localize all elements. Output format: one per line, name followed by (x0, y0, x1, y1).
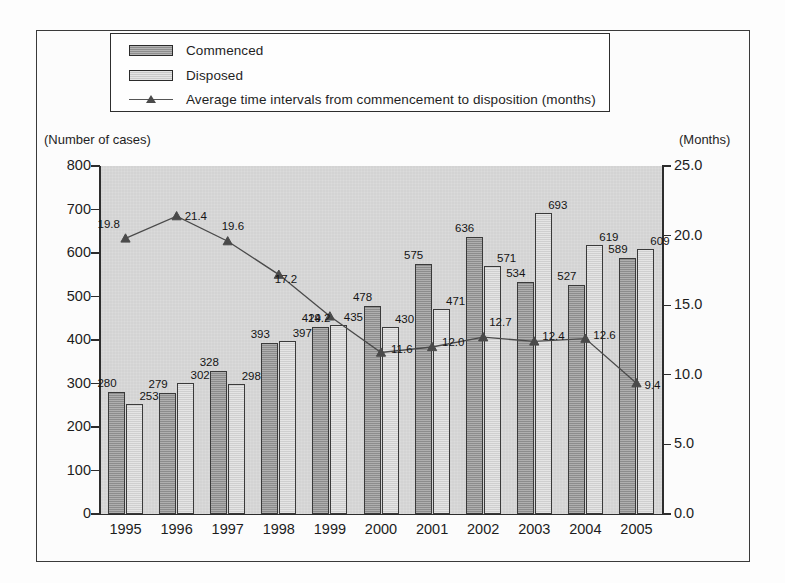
y-tick-left (91, 296, 100, 297)
y-tick-label-left: 0 (45, 505, 91, 521)
line-value-label: 12.4 (542, 330, 564, 342)
y-tick-label-left: 100 (45, 462, 91, 478)
y-tick-label-left: 400 (45, 331, 91, 347)
y-tick-label-right: 25.0 (674, 157, 730, 173)
chart-figure: Commenced Disposed Average time interval… (0, 0, 785, 583)
y-tick-label-left: 600 (45, 244, 91, 260)
y-tick-right (662, 165, 671, 166)
x-tick-label: 1996 (151, 521, 203, 537)
x-tick-label: 1999 (304, 521, 356, 537)
y-tick-label-left: 700 (45, 201, 91, 217)
y-axis-right (662, 166, 664, 515)
y-tick-label-right: 15.0 (674, 296, 730, 312)
y-tick-label-left: 500 (45, 288, 91, 304)
y-tick-left (91, 165, 100, 166)
legend-item-average-time: Average time intervals from commencement… (129, 89, 596, 109)
x-tick-label: 1997 (202, 521, 254, 537)
legend-item-commenced: Commenced (129, 40, 263, 60)
x-tick-label: 2005 (610, 521, 662, 537)
chart-legend: Commenced Disposed Average time interval… (110, 33, 610, 112)
x-tick-label: 1995 (100, 521, 152, 537)
y-tick-left (91, 470, 100, 471)
x-tick-label: 2002 (457, 521, 509, 537)
line-value-label: 12.0 (442, 336, 464, 348)
y-tick-label-right: 5.0 (674, 435, 730, 451)
y-tick-label-left: 300 (45, 375, 91, 391)
line-value-label: 11.6 (391, 343, 413, 355)
legend-swatch-commenced-icon (129, 45, 173, 56)
x-tick-label: 2003 (508, 521, 560, 537)
y-tick-left (91, 513, 100, 514)
y-tick-left (91, 426, 100, 427)
legend-label-commenced: Commenced (186, 43, 263, 58)
y-tick-label-right: 10.0 (674, 366, 730, 382)
y-tick-label-left: 200 (45, 418, 91, 434)
line-value-label: 12.6 (593, 329, 615, 341)
y-tick-left (91, 339, 100, 340)
y-axis-caption-left: (Number of cases) (44, 132, 151, 147)
y-tick-right (662, 374, 671, 375)
y-tick-left (91, 252, 100, 253)
y-tick-label-right: 0.0 (674, 505, 730, 521)
line-value-label: 19.8 (98, 218, 120, 230)
line-value-label: 14.2 (308, 312, 330, 324)
legend-label-average-time: Average time intervals from commencement… (186, 92, 596, 107)
x-tick-label: 1998 (253, 521, 305, 537)
line-value-label: 17.2 (275, 273, 297, 285)
y-tick-right (662, 513, 671, 514)
y-tick-label-right: 20.0 (674, 227, 730, 243)
y-tick-left (91, 209, 100, 210)
line-value-label: 21.4 (185, 210, 207, 222)
x-tick-label: 2004 (559, 521, 611, 537)
legend-item-disposed: Disposed (129, 65, 243, 85)
line-value-label: 12.7 (489, 316, 511, 328)
legend-line-marker-icon (129, 94, 173, 105)
x-tick-label: 2000 (355, 521, 407, 537)
y-axis-caption-right: (Months) (679, 132, 730, 147)
x-tick-label: 2001 (406, 521, 458, 537)
legend-swatch-disposed-icon (129, 70, 173, 81)
line-value-label: 9.4 (644, 379, 660, 391)
y-tick-label-left: 800 (45, 157, 91, 173)
line-value-label: 19.6 (222, 220, 244, 232)
legend-label-disposed: Disposed (186, 68, 243, 83)
y-tick-right (662, 444, 671, 445)
y-tick-right (662, 305, 671, 306)
